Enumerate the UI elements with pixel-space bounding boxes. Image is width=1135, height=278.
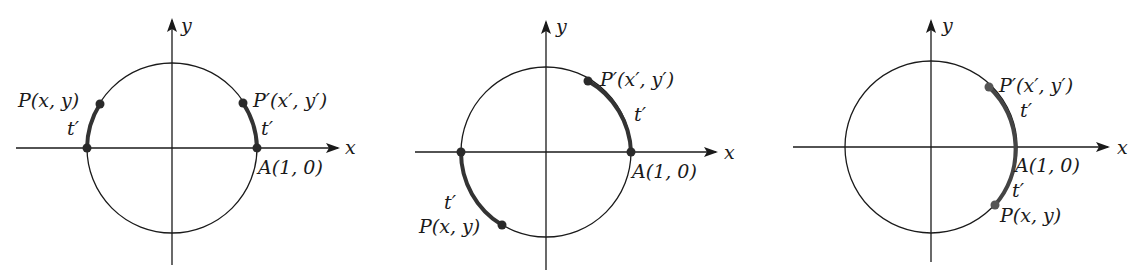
unit-circle-figure: P(x, y) P′(x′, y′) t′ t′ A(1, 0) x y P(x… xyxy=(0,0,1135,278)
label-t-prime-left: t′ xyxy=(67,117,80,139)
label-x-axis: x xyxy=(1117,136,1128,158)
label-P: P(x, y) xyxy=(418,215,480,237)
point-neg-A-dot xyxy=(457,148,466,157)
label-P: P(x, y) xyxy=(17,89,79,111)
label-P-prime: P′(x′, y′) xyxy=(599,68,674,90)
label-t-prime-upper: t′ xyxy=(634,103,647,125)
point-P-prime-dot xyxy=(239,99,248,108)
label-A: A(1, 0) xyxy=(1013,154,1080,176)
label-t-prime-upper: t′ xyxy=(1020,99,1033,121)
point-neg-A-dot xyxy=(83,144,92,153)
label-A: A(1, 0) xyxy=(256,156,323,178)
panel-2: P(x, y) P′(x′, y′) t′ t′ A(1, 0) x y xyxy=(415,15,735,270)
label-y-axis: y xyxy=(180,14,192,36)
label-P-prime: P′(x′, y′) xyxy=(252,89,327,111)
panel-3: P′(x′, y′) t′ A(1, 0) t′ P(x, y) x y xyxy=(793,14,1128,262)
label-y-axis: y xyxy=(555,15,567,37)
panel-1: P(x, y) P′(x′, y′) t′ t′ A(1, 0) x y xyxy=(16,14,356,265)
point-P-prime-dot xyxy=(584,77,593,86)
label-A: A(1, 0) xyxy=(630,160,697,182)
arc-t-prime-left xyxy=(87,104,100,148)
point-A-dot xyxy=(253,144,262,153)
label-P-prime: P′(x′, y′) xyxy=(998,74,1073,96)
label-t-prime-lower: t′ xyxy=(1012,179,1025,201)
point-P-dot xyxy=(96,100,105,109)
point-P-prime-dot xyxy=(985,83,994,92)
arc-t-prime-upper xyxy=(588,81,631,152)
label-x-axis: x xyxy=(345,136,356,158)
point-A-dot xyxy=(627,148,636,157)
point-P-dot xyxy=(991,201,1000,210)
label-t-prime-right: t′ xyxy=(261,117,274,139)
label-t-prime-lower: t′ xyxy=(444,191,457,213)
label-P: P(x, y) xyxy=(999,204,1061,226)
point-P-dot xyxy=(498,221,507,230)
label-y-axis: y xyxy=(941,14,953,36)
label-x-axis: x xyxy=(724,141,735,163)
